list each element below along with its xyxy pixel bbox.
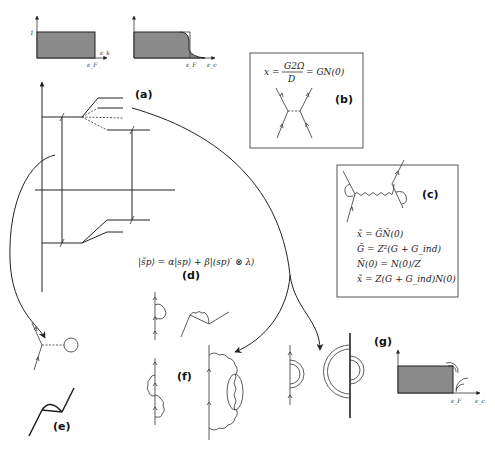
phonon-loop xyxy=(155,304,166,319)
dressed-propagator-diagrams xyxy=(288,333,364,418)
split-dash xyxy=(82,117,123,118)
y-tick-label: 1 xyxy=(30,29,34,36)
equation-line: Ñ(0) = N(0)/Z xyxy=(356,258,422,269)
equation-line: x̃ = Z(G + G_ind)N(0) xyxy=(357,274,456,285)
panel-e: (e) xyxy=(29,388,74,436)
split-line xyxy=(82,98,98,117)
panel-d-equation: |s̃p⟩ = α|sp⟩ + β|(sp)′ ⊗ λ⟩ xyxy=(138,257,255,268)
x-tick-label: ε_F xyxy=(451,397,462,405)
panel-b-label: (b) xyxy=(335,93,353,106)
x-tick-label: ε_F xyxy=(87,61,98,69)
self-energy-loop xyxy=(345,184,353,197)
connector-curve xyxy=(132,108,290,275)
filled-smeared-step xyxy=(134,32,205,58)
panel-g: (g) ε_F ε_c xyxy=(374,335,485,405)
eq-numerator: G2Ω xyxy=(284,61,305,71)
panel-b: x = G2Ω D = GN(0) (b) xyxy=(250,53,363,148)
arrow-to-f xyxy=(235,275,290,352)
panel-f: (f) xyxy=(147,292,243,440)
fermion-line xyxy=(276,88,288,111)
fermion-line xyxy=(42,410,62,412)
self-energy-loop xyxy=(396,192,407,205)
double-line-inner xyxy=(328,349,350,394)
phonon-arc xyxy=(209,353,237,374)
double-line-inner xyxy=(290,364,300,384)
x-tick-label: ε_F xyxy=(186,61,197,69)
panel-d: |s̃p⟩ = α|sp⟩ + β|(sp)′ ⊗ λ⟩ (d) xyxy=(138,257,255,282)
fermion-line xyxy=(300,88,312,111)
occupation-plot-smeared: ε_F ε_c xyxy=(134,16,217,69)
internal-phonon xyxy=(234,374,236,410)
panel-c-label: (c) xyxy=(422,188,439,201)
phonon-arc xyxy=(190,312,209,325)
split-line xyxy=(82,232,107,243)
x-axis-label: ε_c xyxy=(207,61,217,69)
physics-diagram-canvas: 1 ε_F ε_k ε_F ε_c xyxy=(0,0,495,449)
panel-c: (c) x̃ = G̃Ñ(0) G̃ = Z²(G + G_ind) Ñ(0) … xyxy=(337,160,458,297)
double-line-inner xyxy=(350,360,360,380)
occupation-plot-sharp: 1 ε_F ε_k xyxy=(30,16,110,69)
x-axis-label: ε_k xyxy=(100,49,110,57)
split-dash xyxy=(82,108,98,117)
excitation-arcs xyxy=(456,378,468,392)
eq-rhs: = GN(0) xyxy=(306,67,345,77)
arrow-to-e xyxy=(10,155,55,338)
panel-f-label: (f) xyxy=(177,370,192,383)
fermion-line xyxy=(32,323,42,345)
arrow-to-g xyxy=(290,275,320,350)
eq-lhs: x = xyxy=(264,67,279,77)
split-line xyxy=(82,220,107,243)
phonon-loop xyxy=(147,375,155,396)
tadpole-loop xyxy=(64,338,78,352)
panel-a-label: (a) xyxy=(135,88,152,101)
phonon-line xyxy=(355,184,394,196)
panel-d-label: (d) xyxy=(182,269,200,282)
fermion-path xyxy=(181,312,229,337)
panel-e-label: (e) xyxy=(53,420,71,433)
filled-step xyxy=(398,366,453,393)
equation-line: G̃ = Z²(G + G_ind) xyxy=(357,243,441,255)
eq-denominator: D xyxy=(287,74,295,84)
phonon-arc xyxy=(209,409,237,430)
fermion-line xyxy=(62,388,74,412)
filled-step xyxy=(37,32,95,58)
phonon-loop xyxy=(155,395,164,417)
fermion-line xyxy=(29,410,42,436)
panel-g-label: (g) xyxy=(374,335,392,348)
split-dash xyxy=(82,117,107,130)
x-axis-label: ε_c xyxy=(475,397,485,405)
equation-line: x̃ = G̃Ñ(0) xyxy=(357,228,404,239)
